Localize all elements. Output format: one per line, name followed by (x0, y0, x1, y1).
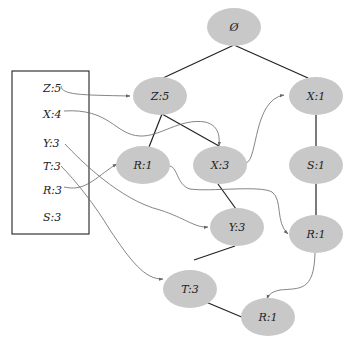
svg-text:S:1: S:1 (307, 159, 325, 172)
svg-text:Y:3: Y:3 (229, 221, 246, 234)
svg-text:T:3: T:3 (181, 283, 199, 296)
svg-text:R:1: R:1 (258, 311, 278, 324)
edge-z5-x3 (162, 114, 219, 146)
header-item-y: Y:3 (43, 137, 60, 150)
svg-text:R:1: R:1 (133, 159, 153, 172)
node-r1-left: R:1 (116, 146, 170, 184)
node-r1-right: R:1 (289, 215, 343, 253)
svg-text:R:1: R:1 (306, 228, 326, 241)
edge-root-x1 (234, 45, 308, 78)
header-item-x: X:4 (42, 108, 62, 121)
svg-text:Ø: Ø (228, 21, 239, 34)
node-z5: Z:5 (133, 77, 187, 115)
node-links (61, 86, 315, 299)
edge-z5-r1 (149, 114, 162, 147)
link-z5 (61, 86, 130, 96)
link-x4-x3 (64, 111, 219, 146)
link-r1-r1-bottom (267, 253, 315, 299)
node-root: Ø (207, 8, 261, 46)
node-x1: X:1 (289, 77, 343, 115)
svg-text:X:1: X:1 (306, 90, 326, 103)
header-item-t: T:3 (43, 160, 61, 173)
fp-tree-diagram: Z:5 X:4 Y:3 T:3 R:3 S:3 Ø Z:5 X:1 R:1 X:… (0, 0, 354, 345)
node-t3: T:3 (163, 270, 217, 308)
svg-text:Z:5: Z:5 (150, 90, 169, 103)
edge-x3-y3 (218, 184, 236, 209)
header-item-s: S:3 (43, 211, 61, 224)
edge-y3-t3 (194, 246, 235, 260)
node-r1-bottom: R:1 (241, 298, 295, 336)
svg-text:X:3: X:3 (210, 159, 230, 172)
header-table-box (12, 71, 89, 234)
header-item-z: Z:5 (42, 82, 61, 95)
link-x3-x1 (246, 95, 284, 163)
header-item-r: R:3 (42, 184, 62, 197)
node-s1: S:1 (289, 146, 343, 184)
link-r3-r1 (64, 164, 117, 188)
header-table: Z:5 X:4 Y:3 T:3 R:3 S:3 (42, 82, 62, 224)
tree-nodes: Ø Z:5 X:1 R:1 X:3 S:1 Y:3 R:1 (116, 8, 343, 336)
node-x3: X:3 (193, 146, 247, 184)
edge-root-z5 (163, 45, 234, 78)
node-y3: Y:3 (210, 208, 264, 246)
